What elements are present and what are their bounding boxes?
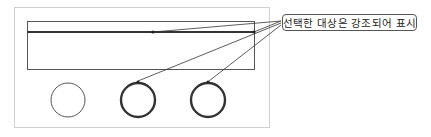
inner-rectangle: [28, 22, 255, 70]
highlighted-circle: [191, 83, 225, 117]
leader-dots: [136, 30, 255, 83]
normal-circle: [51, 83, 85, 117]
leader-lines: [138, 21, 281, 81]
highlighted-circle: [121, 83, 155, 117]
callout-label: 선택한 대상은 강조되어 표시: [282, 14, 417, 31]
